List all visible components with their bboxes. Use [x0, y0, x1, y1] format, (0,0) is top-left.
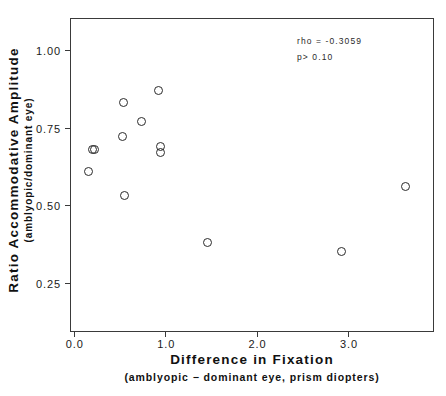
x-axis-tick-label: 2.0 — [249, 338, 267, 350]
y-axis-tick-label: 1.00 — [36, 45, 61, 57]
x-axis-tick: 0.0 — [74, 331, 75, 337]
data-point — [203, 238, 212, 247]
data-point — [401, 182, 410, 191]
x-axis-tick-label: 3.0 — [340, 338, 358, 350]
plot-area: rho = -0.3059 p> 0.10 0.250.500.751.000.… — [70, 18, 434, 332]
x-axis-tick: 3.0 — [348, 331, 349, 337]
data-point — [120, 191, 129, 200]
data-point — [337, 247, 346, 256]
data-point — [119, 98, 128, 107]
x-axis-title-block: Difference in Fixation (amblyopic − domi… — [70, 352, 434, 383]
data-points-layer — [71, 19, 433, 331]
y-axis-tick-label: 0.25 — [36, 278, 61, 290]
y-axis-title-rotated: Ratio Accommodative Amplitude (amblyopic… — [6, 47, 34, 292]
data-point — [156, 148, 165, 157]
scatter-plot-figure: Ratio Accommodative Amplitude (amblyopic… — [0, 0, 446, 396]
data-point — [137, 117, 146, 126]
y-axis-tick-label: 0.50 — [36, 200, 61, 212]
y-axis-subtitle: (amblyopic/dominant eye) — [23, 47, 34, 292]
y-axis-tick-label: 0.75 — [36, 123, 61, 135]
data-point — [90, 145, 99, 154]
data-point — [84, 167, 93, 176]
x-axis-subtitle: (amblyopic − dominant eye, prism diopter… — [70, 371, 434, 383]
y-axis-title-block: Ratio Accommodative Amplitude (amblyopic… — [0, 0, 40, 340]
x-axis-tick-label: 0.0 — [66, 338, 84, 350]
data-point — [118, 132, 127, 141]
data-point — [154, 86, 163, 95]
x-axis-tick: 1.0 — [165, 331, 166, 337]
x-axis-title: Difference in Fixation — [70, 352, 434, 367]
x-axis-tick-label: 1.0 — [157, 338, 175, 350]
x-axis-tick: 2.0 — [257, 331, 258, 337]
y-axis-title: Ratio Accommodative Amplitude — [6, 47, 21, 292]
